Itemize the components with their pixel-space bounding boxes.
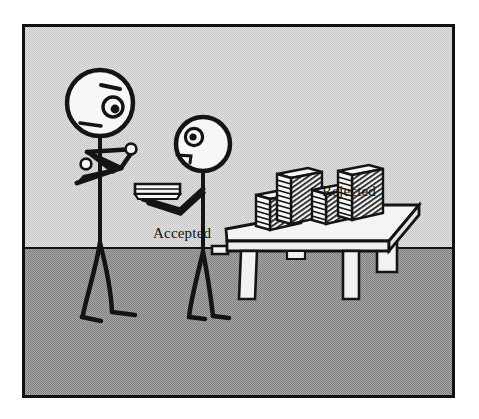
figure-right-foot-near — [189, 317, 205, 319]
figure-left-hand-upper — [126, 144, 137, 155]
illustration-frame: Accepted Rejected — [22, 24, 455, 398]
cartoon-illustration — [25, 27, 452, 395]
figure-left-pupil — [111, 105, 120, 114]
figure-right-foot-far — [213, 316, 229, 318]
accepted-label: Accepted — [153, 225, 211, 242]
figure-left-foot-far — [112, 312, 135, 315]
table-leg-front-left — [239, 251, 257, 299]
table-top-edge — [227, 241, 389, 251]
table-brace — [287, 251, 305, 259]
figure-right-head — [176, 117, 230, 171]
cartoon-scene: Accepted Rejected — [0, 0, 479, 419]
figure-left-hand-lower — [81, 159, 92, 170]
table-leg-front-right — [343, 251, 359, 299]
accepted-paper-stack — [135, 184, 180, 199]
figure-right-pupil — [189, 133, 196, 140]
rejected-label: Rejected — [322, 183, 376, 200]
